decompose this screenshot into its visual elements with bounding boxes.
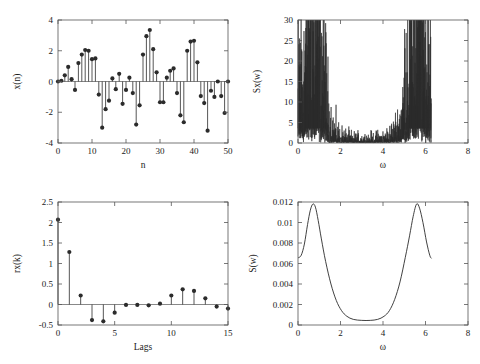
stem-marker (206, 129, 210, 133)
stem-marker (117, 72, 121, 76)
stems (56, 218, 230, 324)
spectrum-trace (298, 204, 431, 321)
svg-text:25: 25 (284, 36, 294, 46)
stem-marker (147, 303, 151, 307)
svg-text:0: 0 (49, 77, 54, 87)
spectrum-line (298, 204, 431, 321)
stem-marker (181, 287, 185, 291)
svg-text:30: 30 (156, 146, 166, 156)
stem-marker (161, 100, 165, 104)
svg-text:15: 15 (224, 328, 234, 338)
stem-marker (97, 92, 101, 96)
svg-text:15: 15 (284, 77, 294, 87)
svg-text:0: 0 (56, 328, 61, 338)
svg-text:2: 2 (338, 328, 343, 338)
svg-text:5: 5 (289, 118, 294, 128)
x-axis-label: ω (380, 160, 386, 170)
panel-bottom-left: 051015-0.500.511.522.5Lagsrx(k) (0, 182, 240, 364)
stem-marker (113, 311, 117, 315)
stem-marker (158, 302, 162, 306)
svg-text:0.006: 0.006 (273, 259, 294, 269)
stem-marker (114, 87, 118, 91)
svg-text:50: 50 (224, 146, 234, 156)
svg-text:0.5: 0.5 (42, 279, 54, 289)
svg-text:40: 40 (190, 146, 200, 156)
stem-marker (110, 76, 114, 80)
stem-marker (66, 65, 70, 69)
svg-text:0.004: 0.004 (273, 279, 294, 289)
stem-marker (90, 318, 94, 322)
svg-text:0: 0 (289, 320, 294, 330)
svg-text:0: 0 (289, 138, 294, 148)
svg-text:2: 2 (338, 146, 343, 156)
svg-text:4: 4 (381, 328, 386, 338)
stem-marker (134, 122, 138, 126)
stem-marker (203, 296, 207, 300)
stem-marker (175, 91, 179, 95)
stem-marker (169, 293, 173, 297)
x-axis-label: ω (380, 342, 386, 352)
stem-marker (127, 76, 131, 80)
stem-marker (151, 47, 155, 51)
svg-text:-0.5: -0.5 (39, 320, 54, 330)
stem-marker (70, 77, 74, 81)
panel-top-right: 02468051015202530ωSx(w) (240, 0, 480, 182)
stem-marker (121, 102, 125, 106)
stem-marker (135, 303, 139, 307)
ar-spectrum-plot-sw: 0246800.0020.0040.0060.0080.010.012ωS(w) (240, 182, 480, 364)
stem-marker (178, 113, 182, 117)
stem-marker (219, 94, 223, 98)
stem-marker (185, 49, 189, 53)
svg-text:6: 6 (423, 146, 428, 156)
y-axis-label: Sx(w) (252, 70, 263, 93)
panel-top-left: 01020304050-4-2024nx(n) (0, 0, 240, 182)
stem-marker (199, 94, 203, 98)
svg-text:10: 10 (284, 97, 294, 107)
stem-marker (192, 39, 196, 43)
x-axis-label: Lags (134, 342, 153, 352)
stem-marker (63, 73, 67, 77)
stem-marker (100, 126, 104, 130)
svg-text:-4: -4 (46, 138, 54, 148)
svg-text:1.5: 1.5 (42, 238, 54, 248)
stem-marker (104, 107, 108, 111)
stem-plot-xn: 01020304050-4-2024nx(n) (0, 0, 240, 182)
svg-text:0: 0 (56, 146, 61, 156)
svg-text:8: 8 (466, 146, 471, 156)
figure-grid: 01020304050-4-2024nx(n) 0246805101520253… (0, 0, 480, 364)
svg-text:20: 20 (122, 146, 132, 156)
stem-marker (216, 79, 220, 83)
stem-marker (79, 293, 83, 297)
stem-marker (141, 52, 145, 56)
svg-text:2: 2 (49, 218, 54, 228)
svg-text:2: 2 (49, 46, 54, 56)
stem-marker (131, 91, 135, 95)
svg-text:6: 6 (423, 328, 428, 338)
stems (56, 28, 230, 133)
svg-text:20: 20 (284, 56, 294, 66)
spectrum-line (298, 20, 431, 143)
svg-text:2.5: 2.5 (42, 197, 54, 207)
stem-plot-autocorrelation: 051015-0.500.511.522.5Lagsrx(k) (0, 182, 240, 364)
stem-marker (223, 111, 227, 115)
stem-marker (182, 120, 186, 124)
svg-text:30: 30 (284, 15, 294, 25)
svg-text:8: 8 (466, 328, 471, 338)
stem-marker (202, 101, 206, 105)
y-axis-label: rx(k) (12, 254, 23, 273)
stem-marker (209, 89, 213, 93)
stem-marker (168, 69, 172, 73)
svg-text:0.008: 0.008 (273, 238, 294, 248)
stem-marker (144, 34, 148, 38)
svg-text:4: 4 (381, 146, 386, 156)
svg-text:-2: -2 (46, 107, 54, 117)
svg-text:0: 0 (49, 300, 54, 310)
svg-text:1: 1 (49, 259, 54, 269)
stem-marker (67, 250, 71, 254)
svg-text:4: 4 (49, 15, 54, 25)
plot-frame (298, 202, 468, 325)
spectrum-trace (298, 20, 431, 143)
stem-marker (124, 88, 128, 92)
x-axis-label: n (141, 160, 146, 170)
periodogram-plot-sxw: 02468051015202530ωSx(w) (240, 0, 480, 182)
